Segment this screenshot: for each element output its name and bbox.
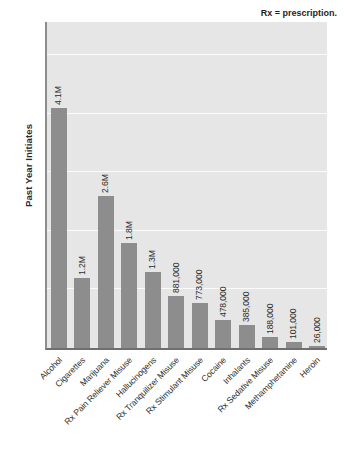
bar[interactable] (192, 303, 208, 348)
bar-value-label: 773,000 (194, 269, 204, 299)
bar-value-label: 4.1M (53, 86, 63, 105)
bar[interactable] (309, 346, 325, 348)
bar[interactable] (168, 296, 184, 348)
y-axis-title: Past Year Initiates (23, 86, 34, 246)
bar-value-label: 101,000 (288, 309, 298, 339)
gridline (47, 54, 327, 55)
bar-value-label: 881,000 (171, 263, 181, 293)
gridline (47, 230, 327, 231)
bar[interactable] (286, 342, 302, 348)
bar[interactable] (51, 108, 67, 348)
bar[interactable] (98, 196, 114, 348)
bar-value-label: 1.8M (124, 221, 134, 240)
bar-value-label: 2.6M (100, 174, 110, 193)
bar[interactable] (121, 243, 137, 348)
bar[interactable] (239, 325, 255, 348)
bar-value-label: 1.3M (147, 250, 157, 269)
bar-value-label: 26,000 (312, 318, 322, 344)
plot-area: 4.1M1.2M2.6M1.8M1.3M881,000773,000478,00… (45, 22, 327, 350)
bar-value-label: 478,000 (218, 287, 228, 317)
gridline (47, 171, 327, 172)
bar[interactable] (215, 320, 231, 348)
gridline (47, 113, 327, 114)
bar-chart-figure: Past Year Initiates 4.1M1.2M2.6M1.8M1.3M… (0, 0, 345, 453)
bar[interactable] (262, 337, 278, 348)
annotation-rx-note: Rx = prescription. (261, 8, 337, 18)
bar-value-label: 385,000 (241, 292, 251, 322)
bar-value-label: 188,000 (265, 304, 275, 334)
bar-value-label: 1.2M (77, 256, 87, 275)
bar[interactable] (145, 272, 161, 348)
bar[interactable] (74, 278, 90, 348)
